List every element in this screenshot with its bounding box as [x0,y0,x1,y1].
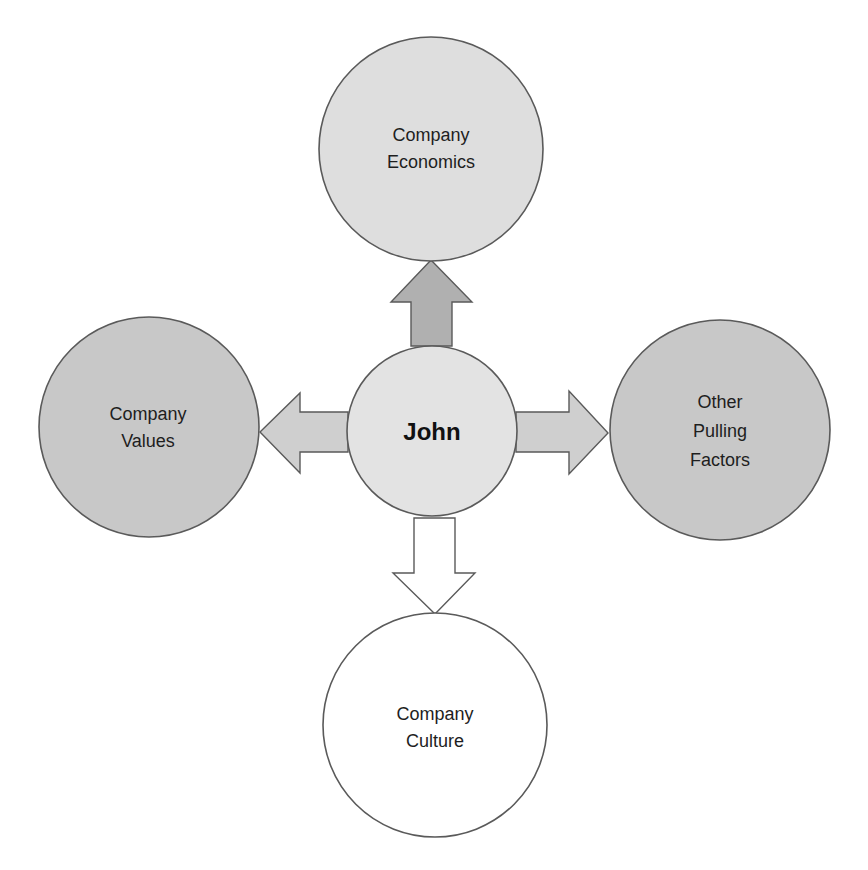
arrow-up-to-company-economics [391,260,472,346]
node-company-values: Company Values [39,317,259,537]
node-company-culture: Company Culture [323,613,547,837]
node-label-line: Company [396,704,473,724]
node-label-line: Factors [690,450,750,470]
arrow-right-to-other-pulling-factors [516,391,608,474]
node-label-line: Company [109,404,186,424]
node-other-pulling-factors: Other Pulling Factors [610,320,830,540]
node-label-line: Values [121,431,175,451]
arrow-left-to-company-values [260,393,348,473]
node-label-line: Pulling [693,421,747,441]
arrow-down-to-company-culture [393,518,475,614]
node-center-john: John [347,346,517,516]
diagram-canvas: Company Economics Company Values Other P… [0,0,868,870]
node-company-economics: Company Economics [319,37,543,261]
node-label-line: Economics [387,152,475,172]
node-label-line: Culture [406,731,464,751]
node-label-line: Company [392,125,469,145]
node-label-line: Other [697,392,742,412]
center-label: John [403,418,460,445]
